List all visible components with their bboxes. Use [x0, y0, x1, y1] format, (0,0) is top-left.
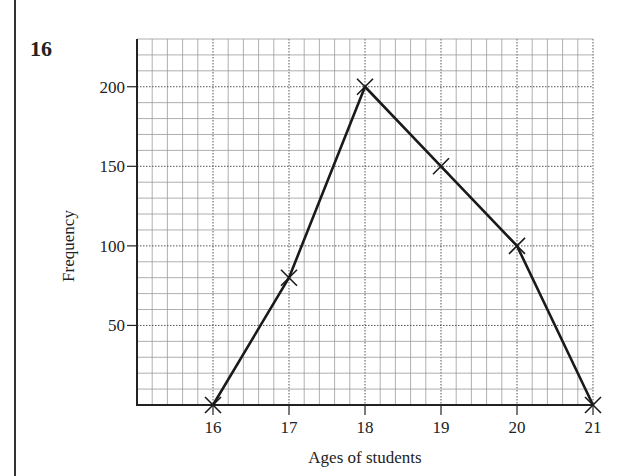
- axes: [127, 39, 593, 415]
- y-tick-label: 50: [108, 316, 125, 335]
- frequency-polygon-chart: 16171819202150100150200 Ages of students…: [0, 0, 628, 476]
- y-axis-label: Frequency: [59, 210, 78, 282]
- x-tick-label: 16: [205, 418, 222, 437]
- x-axis-label: Ages of students: [308, 448, 421, 467]
- x-tick-label: 18: [357, 418, 374, 437]
- y-tick-label: 150: [100, 157, 126, 176]
- y-tick-label: 200: [100, 78, 126, 97]
- x-tick-label: 19: [433, 418, 450, 437]
- x-tick-label: 21: [585, 418, 602, 437]
- grid: [137, 39, 593, 405]
- x-tick-label: 20: [509, 418, 526, 437]
- y-tick-label: 100: [100, 237, 126, 256]
- tick-labels: 16171819202150100150200: [100, 78, 602, 437]
- x-tick-label: 17: [281, 418, 299, 437]
